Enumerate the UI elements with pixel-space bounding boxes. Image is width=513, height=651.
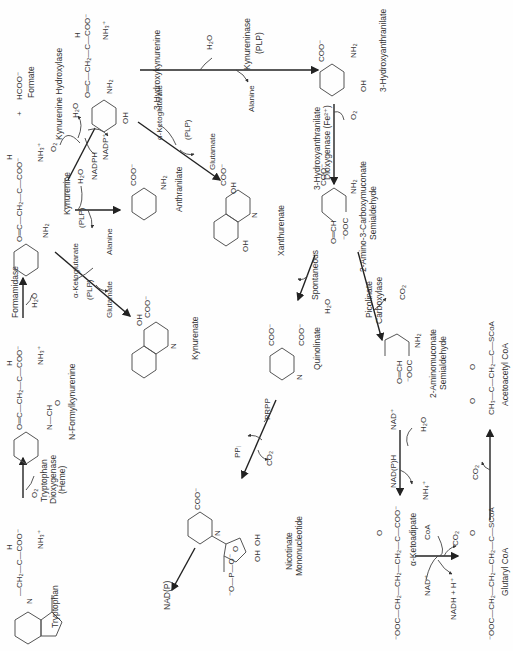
carboxylate-label: ⁻OOC [405,360,414,382]
plp-label: (PLP) [183,119,192,140]
coa-label: CoA [423,524,432,540]
quinolinate-label: Quinolinate [312,327,322,370]
spontaneous-step: Spontaneous H₂O [298,250,332,314]
nitrogen-label: N [295,374,304,380]
h2o-label: H₂O [323,299,332,314]
alanine-label: Alanine [105,228,114,255]
acms-label-2: Semialdehyde [368,186,378,240]
glutamate-label: Glutamate [208,133,217,170]
kynurenate-label: Kynurenate [190,316,200,360]
oxygen-label: O [468,530,477,536]
phosphate-group: ⁻O—P—O⁻ [227,554,236,596]
glutamate-label: Glutamate [105,281,114,318]
coo-label: COO⁻ [143,296,152,318]
formamidase-step: Formamidase H₂O [10,266,39,318]
kyn-side-chain: O═C—CH₂—C—COO⁻ [15,158,24,242]
co2-label: CO₂ [398,285,407,300]
acetoacetyl-coa-structure: CH₃—C—CH₂—C—SCoA O O Acetoacetyl CoA [468,320,510,415]
oh-label: OH [253,550,262,562]
nadp-product-label: NAD(P) [162,581,172,610]
acms-structure: COO⁻ NH₂ O═CH ⁻OOC 2-Amino-3-Carboxymuco… [319,161,378,272]
aminomuconate-structure: NH₂ O═CH ⁻OOC 2-Aminomuconate Semialdehy… [385,329,448,398]
co2-label: CO₂ [265,451,274,466]
xanthurenate-structure: OH COO⁻ N OH Xanthurenate [214,164,286,256]
tryptophan-label: Tryptophan [50,585,60,628]
oxygen-label: O [53,400,62,406]
nitrogen-label: N [169,343,178,349]
akg-label: α-Ketoglutarate [155,85,164,140]
nh4-label: NH₄⁺ [421,481,430,500]
anthranilate-structure: COO⁻ NH₂ Anthranilate [129,164,184,220]
coo-label: COO⁻ [317,40,326,62]
ring-oxygen-label: O [231,546,240,552]
coo-label: COO⁻ [193,488,202,510]
glutaryl-coa-structure: ⁻OOC—CH₂—CH₂—CH₂—C—SCoA O Glutaryl CoA [468,506,510,640]
nitrogen-label: N [250,212,259,218]
prpp-label: PRPP [263,398,272,420]
co2-label: CO₂ [451,531,460,546]
h-label: H [5,544,14,550]
aldehyde-label: O═CH [329,220,338,244]
nitrogen-label: N [213,530,222,536]
h-label: H [73,32,82,38]
oxygen-label: O [468,398,477,404]
kynurenine-label: Kynurenine [62,172,72,215]
nicotinate-mononucleotide-structure: COO⁻ N O OH OH ⁻O—P—O⁻ Nicotinate Mononu… [188,488,304,596]
formamidase-label: Formamidase [10,266,20,318]
carboxylate-label: ⁻OOC [341,218,350,240]
nh3-label: NH₃⁺ [36,346,45,365]
aminomuconate-label: 2-Aminomuconate [428,329,438,398]
oh-label: OH [229,182,238,194]
akg-label: α-Ketoglutarate [71,243,80,298]
glutaryl-to-acetoacetyl-step: CO₂ [471,430,490,520]
picolinate-carboxylase-label-2: Carboxylase [374,276,384,324]
o2-label: O₂ [49,143,58,152]
qprt-step: PRPP PPᵢ CO₂ [233,398,276,478]
coo-label: COO⁻ [267,324,276,346]
aldehyde-label: O═CH [395,360,404,384]
oh-label: OH [121,112,130,124]
spontaneous-label: Spontaneous [310,250,320,300]
h2o-label: H₂O [76,169,85,184]
kynurenine-hydroxylase-step: O₂ Kynurenine Hydroxylase H₂O NADPH NADP… [49,48,110,180]
coo-label: COO⁻ [219,164,228,186]
coo-label: COO⁻ [319,164,328,186]
h2o-label: H₂O [30,293,39,308]
kynureninase-step-2: H₂O Kynureninase (PLP) Alanine [140,18,318,112]
n-formylkynurenine-label: N-Formylkynurenine [67,363,77,440]
hk-side-chain: O═C—CH₂—C—COO⁻ [83,14,92,98]
nh3-label: NH₃⁺ [36,530,45,549]
xanthurenate-transamination: α-Ketoglutarate (PLP) Glutamate [138,85,220,180]
hydroxyanthranilate-label: 3-Hydroxyanthranilate [378,9,388,92]
nh2-label: NH₂ [349,179,358,194]
ketoadipate-label: α-Ketoadipate [408,513,418,566]
kynurenine-structure: O═C—CH₂—C—COO⁻ NH₂ H NH₃⁺ Kynurenine [5,143,72,276]
xanthurenate-label: Xanthurenate [276,205,286,256]
nadph-label: NAD(P)H [389,454,398,488]
ppi-label: PPᵢ [233,446,242,458]
nmn-label-2: Mononucleotide [294,516,304,576]
h-label: H [5,360,14,366]
kyn-hydroxylase-label: Kynurenine Hydroxylase [54,48,64,140]
heme-label: (Heme) [57,465,67,494]
nmn-label: Nicotinate [284,532,294,570]
o2-label: O₂ [349,111,358,120]
nadh-label: NADH + H⁺ [449,578,458,620]
nh2-label: NH₂ [349,43,358,58]
nad-branch: NAD(P) [162,548,195,610]
nh2-label: NH₂ [413,333,422,348]
tryptophan-side-chain: —CH₂—C—COO⁻ [15,529,24,596]
acetoacetyl-formula: CH₃—C—CH₂—C—SCoA [487,320,496,415]
acetoacetyl-coa-label: Acetoacetyl CoA [500,343,510,406]
anthranilate-label: Anthranilate [174,166,184,212]
formyl-group: N—CH [45,404,54,430]
nh2-label: NH₂ [41,223,50,238]
oh-label: OH [253,534,262,546]
nh2-label: NH₂ [105,79,114,94]
coo-label: COO⁻ [129,164,138,186]
quinolinate-structure: COO⁻ COO⁻ N Quinolinate [267,324,322,380]
h2o-label: H₂O [419,417,428,432]
diagram-svg: N —CH₂—C—COO⁻ H NH₃⁺ Tryptophan O₂ Trypt… [0,0,513,651]
nad-plus-label: NAD⁺ [423,575,432,596]
hydroxykynurenine-structure: O═C—CH₂—C—COO⁻ H NH₃⁺ NH₂ OH 3-Hydroxyky… [73,14,162,132]
